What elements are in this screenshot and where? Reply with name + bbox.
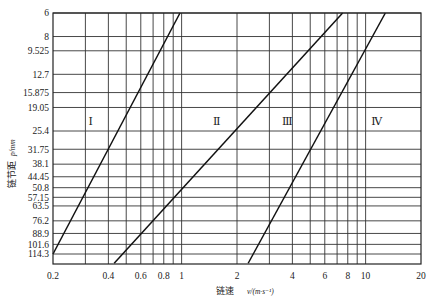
x-tick-label: 0.6: [135, 271, 147, 281]
region-labels: ⅠⅡⅢⅣ: [88, 115, 383, 127]
y-tick-label: 114.3: [28, 249, 49, 259]
y-tick-label: 31.75: [28, 145, 50, 155]
x-tick-label: 4: [290, 271, 295, 281]
region-label: Ⅰ: [88, 115, 92, 127]
y-axis-label: 链节距 p/mm: [6, 139, 17, 188]
region-label: Ⅳ: [371, 115, 383, 127]
y-tick-label: 9.525: [28, 46, 50, 56]
region-label: Ⅲ: [282, 115, 293, 127]
x-tick-label: 0.8: [158, 271, 170, 281]
x-tick-label: 10: [361, 271, 371, 281]
y-tick-label: 76.2: [32, 216, 49, 226]
y-tick-label: 50.8: [32, 183, 49, 193]
boundary-line: [53, 13, 180, 254]
x-tick-label: 0.2: [47, 271, 59, 281]
chain-speed-pitch-chart: 689.52512.715.87519.0525.431.7538.144.45…: [0, 0, 430, 302]
y-tick-label: 8: [44, 32, 49, 42]
x-tick-label: 20: [416, 271, 426, 281]
y-tick-label: 101.6: [28, 240, 50, 250]
x-tick-label: 2: [235, 271, 240, 281]
y-tick-label: 19.05: [28, 103, 50, 113]
y-tick-label: 6: [44, 8, 49, 18]
x-axis-unit: v/(m·s⁻¹): [247, 287, 274, 296]
y-tick-label: 63.5: [32, 201, 49, 211]
x-tick-label: 0.4: [102, 271, 114, 281]
y-tick-label: 25.4: [32, 126, 49, 136]
y-tick-label: 12.7: [32, 70, 49, 80]
x-tick-label: 1: [179, 271, 184, 281]
x-axis-tick-labels: 0.20.40.60.8124681020: [47, 271, 426, 281]
y-tick-label: 15.875: [23, 88, 49, 98]
y-axis-unit: p/mm: [8, 139, 17, 157]
y-tick-label: 38.1: [32, 159, 49, 169]
grid-lines: [53, 13, 421, 264]
y-axis-tick-labels: 689.52512.715.87519.0525.431.7538.144.45…: [23, 8, 49, 259]
x-tick-label: 8: [345, 271, 350, 281]
y-tick-label: 88.9: [32, 229, 49, 239]
y-axis-title: 链节距: [6, 161, 17, 188]
region-label: Ⅱ: [213, 115, 220, 127]
x-axis-title: 链速: [216, 285, 234, 296]
x-tick-label: 6: [322, 271, 327, 281]
x-axis-label: 链速 v/(m·s⁻¹): [216, 285, 274, 296]
y-tick-label: 44.45: [28, 172, 50, 182]
